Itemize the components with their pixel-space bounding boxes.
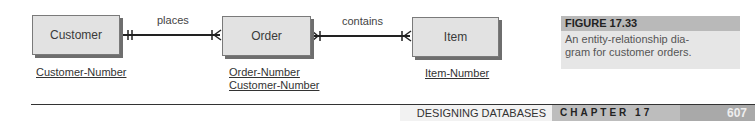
entity-order: Order bbox=[222, 16, 311, 56]
entity-label: Order bbox=[251, 29, 282, 43]
entity-item: Item bbox=[412, 17, 499, 57]
footer-page-number: 607 bbox=[680, 105, 755, 121]
figure-number: FIGURE 17.33 bbox=[561, 16, 740, 31]
relationship-label-places: places bbox=[157, 14, 189, 26]
key-order-customer-number: Customer-Number bbox=[229, 79, 319, 92]
entity-customer: Customer bbox=[32, 15, 120, 55]
caption-line-1: An entity-relationship dia- bbox=[565, 33, 736, 46]
entity-label: Item bbox=[444, 30, 467, 44]
caption-line-2: gram for customer orders. bbox=[565, 46, 736, 59]
footer-section-title: DESIGNING DATABASES bbox=[400, 105, 552, 121]
entity-label: Customer bbox=[50, 28, 102, 42]
key-item-number: Item-Number bbox=[425, 67, 489, 80]
relationship-label-contains: contains bbox=[342, 15, 383, 27]
figure-caption: FIGURE 17.33 An entity-relationship dia-… bbox=[561, 16, 740, 69]
key-customer-number: Customer-Number bbox=[36, 66, 126, 79]
footer-chapter: CHAPTER 17 bbox=[552, 105, 680, 121]
figure-description: An entity-relationship dia- gram for cus… bbox=[561, 31, 740, 61]
key-order-number: Order-Number bbox=[229, 66, 300, 79]
